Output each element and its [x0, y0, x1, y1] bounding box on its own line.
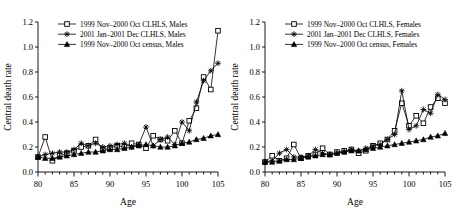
legend-item[interactable]: 2001 Jan–2001 Dec CLHLS, Females [285, 30, 419, 39]
data-point-asterisk [442, 97, 448, 103]
data-point-open-square [414, 113, 419, 118]
chart-males: 0.00.20.40.60.81.01.280859095100105AgeCe… [0, 0, 226, 217]
data-point-asterisk [64, 31, 70, 37]
x-axis-tick-label: 100 [403, 179, 416, 189]
legend: 1999 Nov–2000 Oct CLHLS, Females2001 Jan… [285, 20, 421, 49]
data-point-open-square [292, 22, 297, 27]
series-filled-triangle [262, 130, 447, 164]
series-asterisk [35, 60, 221, 160]
data-point-asterisk [186, 128, 192, 134]
x-axis-tick-label: 85 [70, 179, 79, 189]
series-filled-triangle [35, 132, 220, 161]
x-axis-tick-label: 105 [439, 179, 452, 189]
data-point-asterisk [78, 140, 84, 146]
y-axis-tick-label: 1.2 [249, 17, 260, 27]
data-point-asterisk [158, 137, 164, 143]
x-axis-title: Age [120, 197, 136, 207]
data-point-asterisk [313, 147, 319, 153]
panel-males: 0.00.20.40.60.81.01.280859095100105AgeCe… [0, 0, 226, 217]
data-point-asterisk [165, 134, 171, 140]
data-point-asterisk [143, 124, 149, 130]
data-point-asterisk [435, 92, 441, 98]
legend-label: 1999 Nov–2000 Oct census, Females [307, 40, 417, 49]
y-axis-title: Central death rate [3, 63, 13, 131]
data-point-asterisk [86, 143, 92, 149]
data-point-open-square [151, 133, 156, 138]
data-point-open-square [421, 121, 426, 126]
data-point-asterisk [215, 60, 221, 66]
data-point-open-square [292, 142, 297, 147]
legend-label: 1999 Nov–2000 Oct CLHLS, Females [307, 20, 421, 29]
y-axis-tick-label: 0.4 [249, 117, 260, 127]
data-point-open-square [65, 22, 70, 27]
data-point-asterisk [291, 31, 297, 37]
y-axis-tick-label: 0.2 [22, 142, 33, 152]
legend-label: 1999 Nov–2000 Oct CLHLS, Males [80, 20, 187, 29]
data-point-asterisk [284, 147, 290, 153]
figure-central-death-rate: 0.00.20.40.60.81.01.280859095100105AgeCe… [0, 0, 453, 217]
legend-item[interactable]: 2001 Jan–2001 Dec CLHLS, Males [58, 30, 186, 39]
legend-label: 1999 Nov–2000 Oct census, Males [80, 40, 184, 49]
data-point-open-square [216, 28, 221, 33]
x-axis-tick-label: 90 [333, 179, 342, 189]
data-point-asterisk [399, 88, 405, 94]
y-axis-tick-label: 0.8 [249, 67, 260, 77]
series-asterisk [262, 88, 448, 165]
legend: 1999 Nov–2000 Oct CLHLS, Males2001 Jan–2… [58, 20, 187, 49]
data-point-asterisk [428, 110, 434, 116]
y-axis-tick-label: 1.0 [22, 42, 33, 52]
series-line [265, 98, 445, 162]
data-point-asterisk [385, 137, 391, 143]
legend-label: 2001 Jan–2001 Dec CLHLS, Females [307, 30, 419, 39]
data-point-filled-triangle [215, 132, 220, 137]
data-point-asterisk [277, 150, 283, 156]
y-axis-tick-label: 0.6 [22, 92, 33, 102]
y-axis-tick-label: 0.0 [249, 167, 260, 177]
x-axis-tick-label: 100 [176, 179, 189, 189]
panel-females: 0.00.20.40.60.81.01.280859095100105AgeCe… [227, 0, 453, 217]
y-axis-tick-label: 1.0 [249, 42, 260, 52]
y-axis-tick-label: 0.2 [249, 142, 260, 152]
data-point-asterisk [392, 132, 398, 138]
x-axis-tick-label: 80 [34, 179, 43, 189]
data-point-asterisk [179, 119, 185, 125]
x-axis-tick-label: 85 [297, 179, 306, 189]
y-axis-tick-label: 0.0 [22, 167, 33, 177]
x-axis-tick-label: 90 [106, 179, 115, 189]
x-axis-title: Age [347, 197, 363, 207]
legend-item[interactable]: 1999 Nov–2000 Oct CLHLS, Males [58, 20, 187, 29]
data-point-open-square [320, 146, 325, 151]
y-axis-tick-label: 0.6 [249, 92, 260, 102]
chart-females: 0.00.20.40.60.81.01.280859095100105AgeCe… [227, 0, 453, 217]
x-axis-tick-label: 95 [369, 179, 378, 189]
data-point-asterisk [406, 127, 412, 133]
data-point-asterisk [201, 78, 207, 84]
x-axis-tick-label: 95 [142, 179, 151, 189]
series-open-square [263, 96, 448, 164]
legend-item[interactable]: 1999 Nov–2000 Oct census, Males [58, 40, 184, 49]
data-point-asterisk [413, 123, 419, 129]
data-point-open-square [209, 87, 214, 92]
legend-item[interactable]: 1999 Nov–2000 Oct CLHLS, Females [285, 20, 421, 29]
y-axis-title: Central death rate [230, 63, 240, 131]
data-point-asterisk [421, 107, 427, 113]
x-axis-tick-label: 105 [212, 179, 225, 189]
data-point-asterisk [208, 68, 214, 74]
data-point-open-square [187, 118, 192, 123]
y-axis-tick-label: 0.8 [22, 67, 33, 77]
data-point-open-square [173, 128, 178, 133]
y-axis-tick-label: 1.2 [22, 17, 33, 27]
data-point-open-square [270, 153, 275, 158]
y-axis-tick-label: 0.4 [22, 117, 33, 127]
data-point-filled-triangle [442, 130, 447, 135]
data-point-asterisk [93, 140, 99, 146]
data-point-asterisk [194, 99, 200, 105]
x-axis-tick-label: 80 [261, 179, 270, 189]
legend-item[interactable]: 1999 Nov–2000 Oct census, Females [285, 40, 417, 49]
legend-label: 2001 Jan–2001 Dec CLHLS, Males [80, 30, 186, 39]
data-point-open-square [43, 135, 48, 140]
